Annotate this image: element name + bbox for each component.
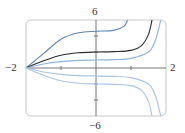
curve-5-line [26,68,152,116]
x-max-label: 2 [170,62,176,73]
curve-3-line [26,20,161,68]
x-min-label: −2 [5,62,17,73]
curve-2-line [26,20,152,68]
y-max-label: 6 [92,6,98,17]
y-min-label: −6 [89,120,101,131]
chart-plot [0,0,185,133]
curve-4-line [26,68,161,116]
